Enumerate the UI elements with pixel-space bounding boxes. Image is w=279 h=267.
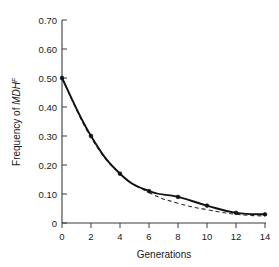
line-chart: 0.70 0.60 0.50 0.40 0.30 0.20 0.10 0 0 2… [0,0,279,267]
x-tick-labels: 0 2 4 6 8 10 12 14 [59,231,270,242]
data-point [89,134,93,138]
y-tick-label: 0.40 [39,102,58,113]
y-tick-label: 0.70 [39,15,58,26]
y-axis-title: Frequency of MDHF [11,77,23,166]
data-point [263,212,267,216]
chart-figure: 0.70 0.60 0.50 0.40 0.30 0.20 0.10 0 0 2… [0,0,279,267]
data-point [176,195,180,199]
data-point [147,189,151,193]
x-tick-marks [62,223,265,228]
data-point [234,211,238,215]
x-axis-title: Generations [137,249,191,260]
x-tick-label: 12 [231,231,242,242]
y-axis-title-prefix: Frequency of [11,105,22,166]
y-tick-label: 0 [52,218,57,229]
x-tick-label: 14 [260,231,271,242]
y-tick-label: 0.10 [39,189,58,200]
y-tick-label: 0.60 [39,44,58,55]
svg-text:Frequency of MDHF: Frequency of MDHF [11,77,23,166]
y-tick-label: 0.20 [39,160,58,171]
x-tick-label: 2 [88,231,93,242]
y-tick-label: 0.50 [39,73,58,84]
series-observed-line [62,78,265,214]
x-tick-label: 6 [146,231,151,242]
x-tick-label: 4 [117,231,122,242]
data-point [60,76,64,80]
y-tick-labels: 0.70 0.60 0.50 0.40 0.30 0.20 0.10 0 [39,15,58,229]
data-point [205,204,209,208]
y-axis-title-superscript: F [11,77,18,82]
data-point [118,172,122,176]
y-tick-marks [62,20,67,223]
y-tick-label: 0.30 [39,131,58,142]
y-axis-title-gene: MDH [11,81,22,105]
x-tick-label: 8 [175,231,180,242]
x-tick-label: 10 [202,231,213,242]
x-tick-label: 0 [59,231,64,242]
